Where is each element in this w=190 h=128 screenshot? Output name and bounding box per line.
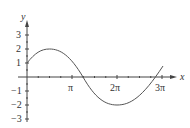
y-tick-label-1: 1 <box>16 57 21 68</box>
y-axis-label: y <box>20 11 26 22</box>
y-tick-label-3: 3 <box>16 29 21 40</box>
y-tick-label-m2: −2 <box>11 99 22 110</box>
x-tick-label-2pi: 2π <box>110 82 120 93</box>
function-plot: y x π 2π 3π 3 2 1 −1 −2 −3 <box>0 0 190 128</box>
y-tick-label-m1: −1 <box>11 85 22 96</box>
y-tick-label-2: 2 <box>16 43 21 54</box>
y-axis-arrow-icon <box>25 20 29 27</box>
x-tick-label-pi: π <box>68 82 73 93</box>
y-tick-label-m3: −3 <box>11 113 22 124</box>
x-tick-label-3pi: 3π <box>155 82 165 93</box>
x-axis-arrow-icon <box>170 75 177 79</box>
x-axis-label: x <box>179 71 185 82</box>
